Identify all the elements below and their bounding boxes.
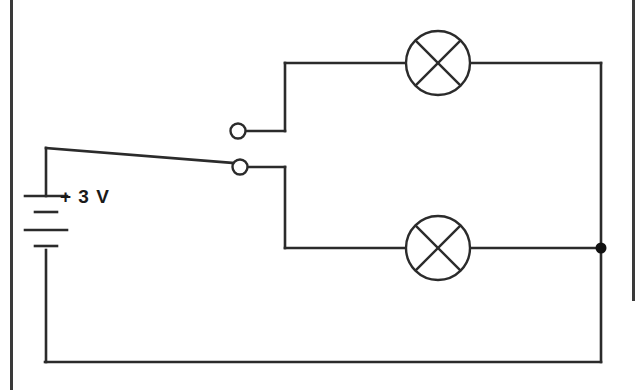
junction-dot-icon: [596, 243, 607, 254]
lamp-lower-icon: [406, 216, 470, 280]
switch-lower-contact-icon[interactable]: [233, 160, 248, 175]
circuit-diagram-page: + 3 V: [0, 0, 636, 390]
lamp-upper-icon: [406, 31, 470, 95]
battery-voltage-label: + 3 V: [60, 186, 110, 208]
switch-upper-contact-icon[interactable]: [231, 124, 246, 139]
switch-lever-blade: [46, 148, 234, 163]
